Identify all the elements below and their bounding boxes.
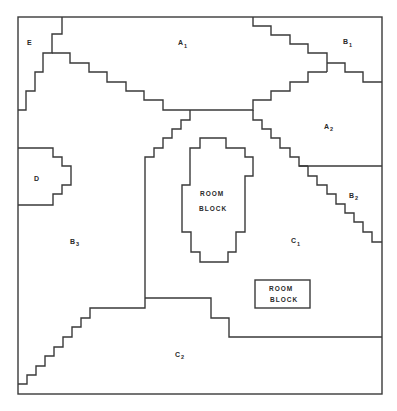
boundary-a1-b1 [253, 17, 327, 72]
svg-text:2: 2 [355, 195, 358, 201]
zone-label-b2: B 2 [349, 192, 358, 201]
svg-text:ROOM: ROOM [269, 285, 293, 292]
svg-text:2: 2 [330, 126, 333, 132]
zone-label-a1: A 1 [178, 39, 187, 49]
svg-text:B: B [70, 238, 75, 245]
boundary-b2-c1 [308, 166, 382, 242]
boundary-d [18, 148, 71, 205]
svg-text:A: A [178, 39, 183, 46]
boundary-b1-a2 [327, 63, 382, 82]
room-block-1-label: ROOM BLOCK [199, 190, 227, 212]
svg-text:B: B [343, 38, 348, 45]
svg-text:3: 3 [76, 241, 79, 247]
boundary-a1-b3 [52, 53, 190, 110]
svg-text:2: 2 [181, 354, 184, 360]
zone-label-e: E [27, 39, 32, 46]
svg-text:C: C [175, 351, 180, 358]
svg-text:C: C [291, 237, 296, 244]
boundary-b3-c1 [145, 110, 190, 298]
room-block-2-label: ROOM BLOCK [269, 285, 298, 303]
svg-text:1: 1 [297, 241, 300, 247]
floor-plan-diagram: E A 1 B 1 A 2 D B 2 B 3 C 1 C 2 ROOM BLO… [0, 0, 397, 411]
svg-text:D: D [34, 175, 39, 182]
room-block-1 [182, 138, 253, 262]
svg-text:1: 1 [184, 43, 187, 49]
svg-text:E: E [27, 39, 32, 46]
boundary-a2-c1 [253, 110, 308, 166]
boundary-e [18, 17, 62, 110]
boundary-c1-c2 [145, 298, 382, 337]
boundary-a1-a2 [190, 72, 327, 110]
svg-text:A: A [324, 123, 329, 130]
zone-label-c2: C 2 [175, 351, 184, 360]
svg-text:B: B [349, 192, 354, 199]
svg-text:ROOM: ROOM [200, 190, 224, 197]
zone-label-d: D [34, 175, 39, 182]
zone-label-a2: A 2 [324, 123, 333, 132]
svg-text:BLOCK: BLOCK [270, 296, 298, 303]
zone-label-b1: B 1 [343, 38, 352, 48]
zone-label-b3: B 3 [70, 238, 79, 247]
svg-text:1: 1 [349, 42, 352, 48]
svg-text:BLOCK: BLOCK [199, 205, 227, 212]
zone-label-c1: C 1 [291, 237, 300, 247]
boundary-b3-c2 [18, 298, 145, 384]
